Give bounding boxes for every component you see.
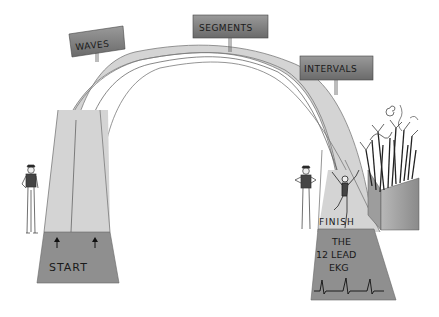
finish-line3: EKG <box>329 262 349 273</box>
spiral-streamer-icon <box>386 106 395 116</box>
observer-figure-left <box>22 165 38 233</box>
cheering-crowd <box>360 105 419 230</box>
sign-waves: WAVES <box>69 26 125 62</box>
sign-segments-label: SEGMENTS <box>199 23 253 33</box>
stand-box <box>381 178 419 230</box>
observer-figure-right <box>295 166 316 229</box>
start-label: START <box>49 261 88 274</box>
finish-line2: 12 LEAD <box>316 249 356 260</box>
finish-banner-label: FINISH <box>319 217 355 227</box>
finish-line1: THE <box>331 236 351 247</box>
ekg-race-track-diagram: WAVES SEGMENTS INTERVALS START F <box>0 0 439 317</box>
sign-intervals-label: INTERVALS <box>304 64 357 74</box>
start-box: START <box>37 232 119 283</box>
